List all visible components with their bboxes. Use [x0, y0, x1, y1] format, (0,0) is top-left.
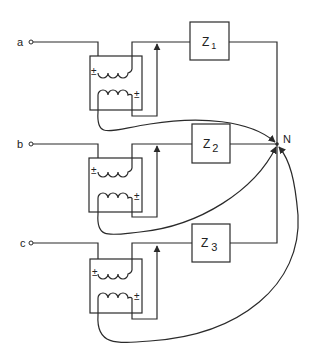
- secondary-polarity-a: ±: [134, 89, 140, 100]
- input-wire-a: [33, 42, 98, 73]
- terminal-label-c: c: [20, 237, 26, 249]
- impedance-z2: [192, 124, 230, 163]
- terminal-b: [29, 142, 33, 146]
- terminal-label-b: b: [17, 138, 23, 150]
- phase-c: c ± ± Z3: [20, 144, 298, 342]
- phase-b: b ± ± Z2: [17, 124, 277, 234]
- phase-a: a ± ± Z1: [17, 22, 277, 144]
- input-wire-b: [33, 144, 98, 172]
- terminal-label-a: a: [17, 36, 24, 48]
- terminal-a: [29, 40, 33, 44]
- neutral-label: N: [283, 133, 291, 145]
- primary-polarity-b: ±: [91, 165, 97, 176]
- primary-polarity-c: ±: [92, 267, 98, 278]
- secondary-polarity-b: ±: [134, 191, 140, 202]
- terminal-c: [29, 241, 33, 245]
- secondary-curve-a-to-n: [98, 112, 275, 142]
- input-wire-c: [33, 243, 98, 274]
- transformer-box-b: [89, 158, 142, 212]
- impedance-z1: [190, 22, 229, 60]
- primary-polarity-a: ±: [91, 66, 97, 77]
- secondary-polarity-c: ±: [134, 291, 140, 302]
- neutral-node: [275, 142, 279, 146]
- circuit-diagram: a ± ± Z1 b ± ± Z2: [0, 0, 313, 358]
